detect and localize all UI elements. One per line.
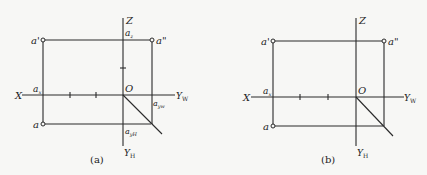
point-a-front	[41, 38, 45, 42]
projection-diagram: Z X O YW YH a' a" a az ax ayw ayH (a) Z …	[0, 0, 427, 175]
label-yh: YH	[124, 148, 135, 159]
label-ayh: ayH	[125, 127, 138, 138]
label-a-side: a"	[388, 36, 399, 47]
figure-a: Z X O YW YH a' a" a az ax ayw ayH (a)	[14, 15, 189, 165]
label-a-top: a	[263, 121, 269, 132]
label-o: O	[125, 83, 133, 94]
point-a-top	[41, 122, 45, 126]
label-yw: YW	[176, 91, 189, 102]
label-yw: YW	[404, 93, 417, 104]
label-ayw: ayw	[153, 99, 166, 110]
label-z: Z	[358, 15, 367, 26]
point-a-side	[150, 38, 154, 42]
label-yh: YH	[357, 148, 368, 159]
label-o: O	[358, 85, 366, 96]
label-az: az	[125, 28, 133, 39]
point-a-front	[271, 39, 275, 43]
point-a-side	[382, 39, 386, 43]
diagonal-45-line	[356, 97, 393, 136]
label-x: X	[242, 92, 251, 103]
caption-b: (b)	[321, 154, 335, 165]
label-ax: ax	[33, 84, 41, 95]
label-a-side: a"	[156, 35, 167, 46]
label-z: Z	[125, 15, 134, 26]
figure-b: Z X O YW YH a' a" a ax (b)	[242, 15, 417, 165]
point-a-top	[271, 124, 275, 128]
label-x: X	[14, 90, 23, 101]
label-a-front: a'	[261, 36, 270, 47]
caption-a: (a)	[90, 154, 104, 165]
label-ax: ax	[263, 86, 271, 97]
label-a-front: a'	[31, 35, 40, 46]
label-a-top: a	[33, 119, 39, 130]
